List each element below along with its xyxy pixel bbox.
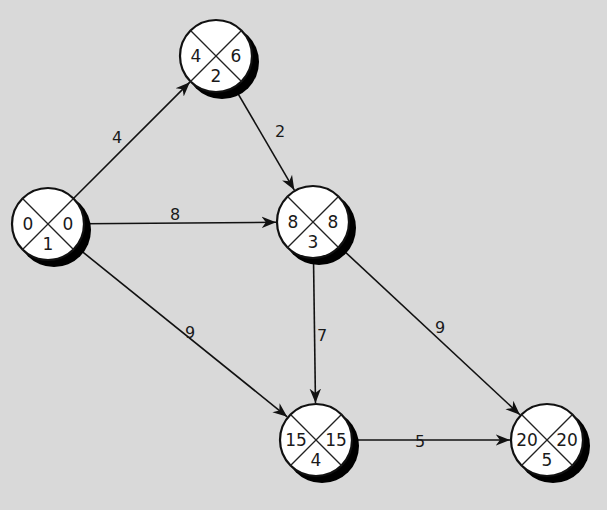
node-3: 883 (277, 186, 356, 265)
node-4: 15154 (280, 404, 359, 483)
edge-arrow (73, 82, 189, 198)
early-start-label: 15 (285, 430, 307, 450)
edge-duration-label: 4 (112, 128, 122, 147)
edge-4-5: 5 (352, 432, 510, 451)
edge-arrow (313, 258, 315, 403)
edge-1-4: 9 (76, 247, 287, 417)
edge-arrow (76, 247, 287, 417)
late-start-label: 6 (231, 46, 242, 66)
edge-duration-label: 9 (185, 323, 195, 342)
late-start-label: 8 (328, 212, 339, 232)
edge-duration-label: 9 (435, 318, 445, 337)
early-start-label: 0 (23, 214, 34, 234)
node-2: 462 (180, 20, 259, 99)
edge-arrow (234, 87, 294, 190)
node-1: 001 (12, 188, 91, 267)
edge-2-3: 2 (234, 87, 294, 190)
node-5: 20205 (511, 404, 590, 483)
node-number-label: 1 (43, 234, 54, 254)
edge-duration-label: 5 (415, 432, 425, 451)
node-number-label: 4 (311, 450, 322, 470)
node-number-label: 3 (308, 232, 319, 252)
late-start-label: 0 (63, 214, 74, 234)
network-diagram: 4892795 0014628831515420205 (0, 0, 607, 510)
early-start-label: 20 (516, 430, 538, 450)
late-start-label: 15 (325, 430, 347, 450)
edge-3-4: 7 (313, 258, 327, 403)
edge-arrow (339, 247, 520, 415)
early-start-label: 4 (191, 46, 202, 66)
edge-duration-label: 8 (170, 205, 180, 224)
edge-1-3: 8 (84, 205, 276, 224)
edge-duration-label: 2 (275, 122, 285, 141)
late-start-label: 20 (556, 430, 578, 450)
edge-3-5: 9 (339, 247, 520, 415)
node-number-label: 2 (211, 66, 222, 86)
early-start-label: 8 (288, 212, 299, 232)
edge-1-2: 4 (73, 82, 189, 198)
edge-duration-label: 7 (317, 326, 327, 345)
node-number-label: 5 (542, 450, 553, 470)
